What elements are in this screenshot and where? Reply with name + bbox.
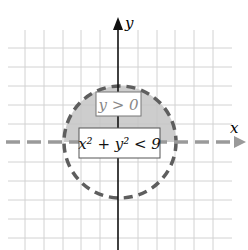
y-axis-label: y bbox=[124, 14, 134, 32]
x-axis-label: x bbox=[230, 119, 239, 137]
y-axis-arrow-icon bbox=[113, 17, 123, 30]
region-label-circle: x² + y² < 9 bbox=[78, 135, 161, 153]
x-axis-arrow-icon bbox=[234, 136, 246, 148]
region-label-upper: y > 0 bbox=[97, 96, 139, 114]
coordinate-plane: y x y > 0 x² + y² < 9 bbox=[0, 0, 248, 250]
